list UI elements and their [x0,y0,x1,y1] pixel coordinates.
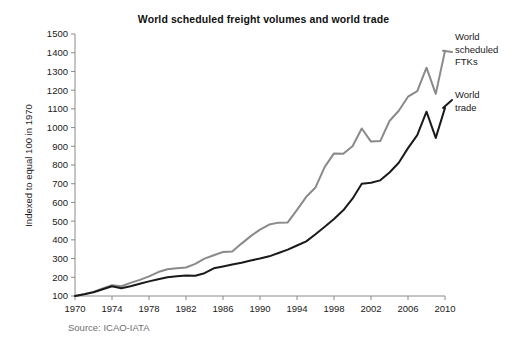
chart-title: World scheduled freight volumes and worl… [0,13,527,25]
series-line-world-trade [75,108,445,296]
y-axis-label: Indexed to equal 100 in 1970 [23,76,34,256]
y-tick-label: 1500 [47,28,68,39]
chart-plot-area: 1002003004005006007008009001000110012001… [0,0,527,357]
axes-group: 1002003004005006007008009001000110012001… [47,28,456,314]
x-tick-label: 1986 [212,303,233,314]
x-tick-label: 1990 [249,303,270,314]
y-tick-label: 100 [52,290,68,301]
x-tick-label: 1994 [286,303,307,314]
y-tick-label: 700 [52,178,68,189]
x-tick-label: 2002 [360,303,381,314]
source-note: Source: ICAO-IATA [68,322,149,333]
y-tick-label: 1100 [48,103,68,114]
y-tick-label: 200 [52,272,68,283]
x-tick-label: 2006 [397,303,418,314]
leader-line-trade [443,100,452,108]
x-tick-label: 1982 [175,303,196,314]
chart-figure: World scheduled freight volumes and worl… [0,0,527,357]
leader-line-ftk [443,51,452,52]
y-tick-label: 900 [52,141,68,152]
x-tick-label: 1998 [323,303,344,314]
y-tick-label: 1400 [47,47,68,58]
y-tick-label: 300 [52,253,68,264]
y-tick-label: 1300 [47,66,68,77]
x-tick-label: 1974 [101,303,122,314]
series-group [75,51,452,296]
series-label-world-trade: World trade [455,89,480,114]
y-tick-label: 800 [52,159,68,170]
y-tick-label: 600 [52,197,68,208]
x-tick-label: 2010 [434,303,455,314]
series-label-world-scheduled-ftks: World scheduled FTKs [455,31,498,69]
y-tick-label: 400 [52,234,68,245]
x-tick-label: 1970 [64,303,85,314]
x-tick-label: 1978 [138,303,159,314]
y-tick-label: 1000 [47,122,68,133]
y-tick-label: 500 [52,216,68,227]
y-tick-label: 1200 [47,85,68,96]
